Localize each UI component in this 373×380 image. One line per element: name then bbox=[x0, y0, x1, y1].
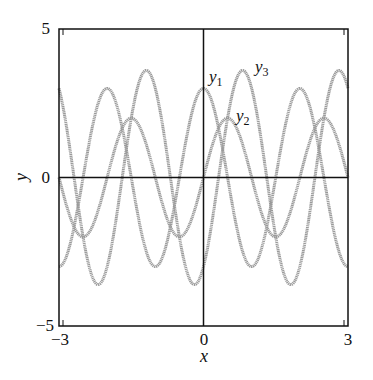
x-tick-label-right: 3 bbox=[344, 330, 353, 349]
x-tick-label-left: −3 bbox=[51, 330, 69, 349]
curve-label-y1: y1 bbox=[207, 67, 223, 89]
y-tick-label-zero: 0 bbox=[42, 168, 51, 187]
chart: 5 0 −5 −3 0 3 x y y1 y3 y2 bbox=[0, 0, 373, 380]
y-tick-label-top: 5 bbox=[42, 19, 51, 38]
x-axis-label: x bbox=[199, 346, 208, 366]
curve-label-y2: y2 bbox=[234, 106, 250, 128]
curve-label-y3: y3 bbox=[253, 57, 269, 79]
y-axis-label: y bbox=[11, 173, 31, 183]
